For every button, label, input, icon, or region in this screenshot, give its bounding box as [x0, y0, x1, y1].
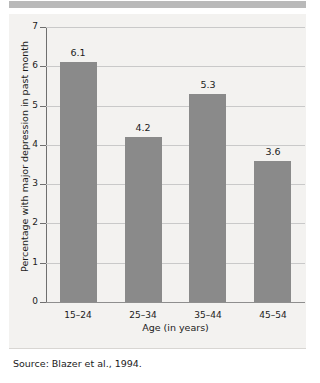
decorative-top-band: [9, 1, 306, 8]
chart-panel: 01234567 6.14.25.33.6 Percentage with ma…: [9, 14, 306, 348]
x-axis-category-label: 35–44: [178, 311, 238, 320]
y-axis-tick-mark: [40, 106, 46, 107]
x-axis-category-label: 25–34: [113, 311, 173, 320]
y-axis-tick-mark: [40, 263, 46, 264]
bar[interactable]: [60, 62, 97, 302]
bar[interactable]: [189, 94, 226, 302]
x-axis-title: Age (in years): [46, 322, 305, 333]
x-axis-category-label: 15–24: [48, 311, 108, 320]
y-axis-tick-mark: [40, 66, 46, 67]
figure-container: 01234567 6.14.25.33.6 Percentage with ma…: [0, 0, 320, 383]
bar-value-label: 5.3: [184, 80, 232, 90]
bar[interactable]: [125, 137, 162, 302]
y-axis-tick-mark: [40, 302, 46, 303]
y-axis-tick-mark: [40, 145, 46, 146]
gridline: [46, 27, 305, 28]
y-axis-tick-label: 0: [14, 297, 38, 306]
plot-area: 6.14.25.33.6: [46, 27, 305, 302]
source-note: Source: Blazer et al., 1994.: [13, 358, 142, 369]
bar-value-label: 3.6: [249, 147, 297, 157]
gridline: [46, 302, 305, 303]
y-axis-title: Percentage with major depression in past…: [19, 19, 30, 295]
bar[interactable]: [254, 161, 291, 302]
y-axis-tick-mark: [40, 184, 46, 185]
y-axis-tick-mark: [40, 27, 46, 28]
x-axis-category-label: 45–54: [243, 311, 303, 320]
bar-value-label: 4.2: [119, 123, 167, 133]
bar-value-label: 6.1: [54, 48, 102, 58]
y-axis-tick-mark: [40, 223, 46, 224]
source-divider: [9, 348, 306, 349]
